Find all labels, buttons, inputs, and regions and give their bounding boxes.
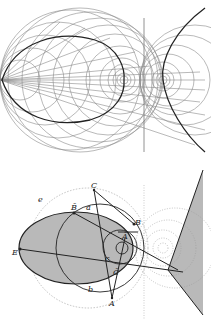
label-C-bar: C̄ [113,268,119,277]
bottom-panel-diagram: C B̄ B Ā C̄ A E e b a c [0,160,211,323]
label-c: c [105,254,110,263]
label-b: b [88,285,93,294]
top-panel-diagram [0,0,211,160]
label-e: e [38,195,43,204]
label-E: E [11,248,18,257]
label-A: A [108,299,115,308]
label-C: C [91,181,97,190]
label-a: a [86,203,91,212]
diagram-figure: C B̄ B Ā C̄ A E e b a c [0,0,211,323]
label-A-bar: Ā [121,232,128,241]
label-B: B [134,218,141,227]
label-B-bar: B̄ [70,203,77,212]
